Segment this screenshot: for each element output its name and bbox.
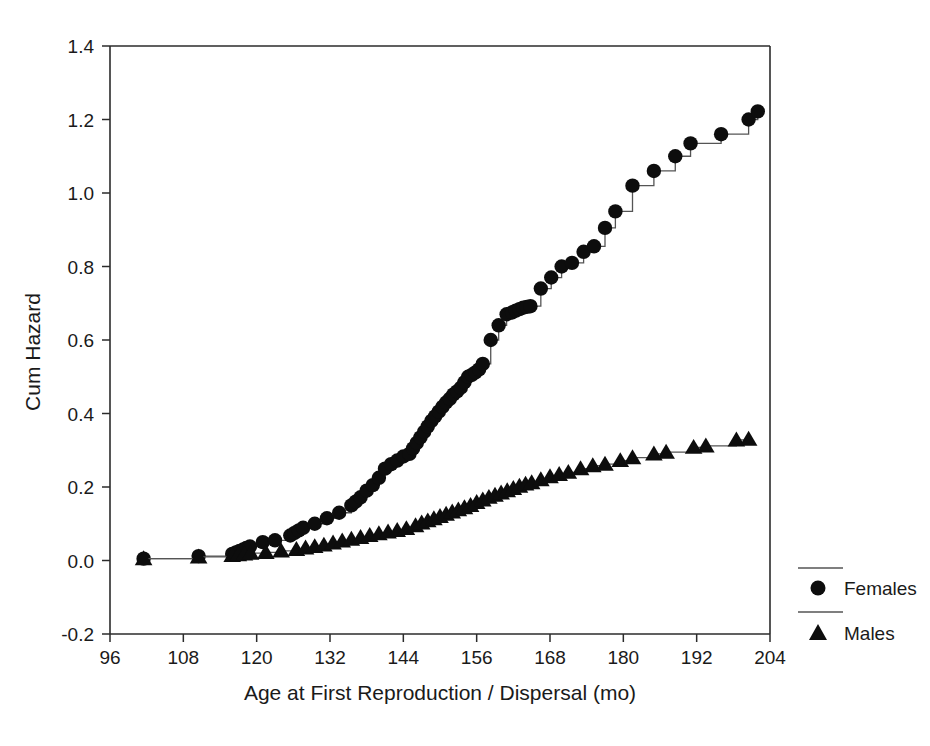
plot-frame <box>110 46 770 634</box>
y-tick-label: 1.4 <box>68 36 95 57</box>
y-tick-label: 0.6 <box>68 330 94 351</box>
x-axis-ticks: 96108120132144156168180192204 <box>99 634 786 668</box>
data-point-marker <box>476 357 490 371</box>
data-series-layer <box>135 104 765 566</box>
x-tick-label: 144 <box>387 647 419 668</box>
legend-label-males: Males <box>844 623 895 644</box>
data-point-marker <box>484 333 498 347</box>
data-point-marker <box>534 281 548 295</box>
y-axis-ticks: -0.20.00.20.40.60.81.01.21.4 <box>61 36 110 645</box>
data-point-marker <box>625 178 639 192</box>
data-point-marker <box>332 506 346 520</box>
data-point-marker <box>587 239 601 253</box>
x-tick-label: 204 <box>754 647 786 668</box>
x-tick-label: 156 <box>461 647 493 668</box>
data-point-marker <box>683 136 697 150</box>
x-tick-label: 132 <box>314 647 346 668</box>
x-tick-label: 180 <box>607 647 639 668</box>
x-tick-label: 96 <box>99 647 120 668</box>
x-tick-label: 192 <box>681 647 713 668</box>
data-point-marker <box>596 456 614 471</box>
legend-label-females: Females <box>844 578 917 599</box>
data-point-marker <box>657 444 675 459</box>
y-tick-label: 0.2 <box>68 477 94 498</box>
x-tick-label: 120 <box>241 647 273 668</box>
data-point-marker <box>523 299 537 313</box>
data-point-marker <box>256 535 270 549</box>
data-point-marker <box>740 431 758 446</box>
data-point-marker <box>565 256 579 270</box>
y-tick-label: 0.8 <box>68 257 94 278</box>
y-tick-label: 0.0 <box>68 551 94 572</box>
x-tick-label: 168 <box>534 647 566 668</box>
data-point-marker <box>608 204 622 218</box>
y-tick-label: 0.4 <box>68 404 95 425</box>
data-point-marker <box>714 127 728 141</box>
series-females <box>136 104 765 566</box>
data-point-marker <box>668 149 682 163</box>
y-tick-label: -0.2 <box>61 624 94 645</box>
figure-container: -0.20.00.20.40.60.81.01.21.4 96108120132… <box>0 0 930 746</box>
legend-triangle-icon <box>809 624 827 640</box>
data-point-marker <box>598 221 612 235</box>
legend-entry-males[interactable]: Males <box>798 612 895 644</box>
data-point-marker <box>624 449 642 464</box>
series-line <box>144 111 758 558</box>
data-point-marker <box>544 270 558 284</box>
legend-circle-icon <box>811 581 826 596</box>
legend: Females Males <box>798 568 917 644</box>
data-point-marker <box>697 437 715 452</box>
x-tick-label: 108 <box>167 647 199 668</box>
y-tick-label: 1.0 <box>68 183 94 204</box>
data-point-marker <box>647 164 661 178</box>
y-axis-title: Cum Hazard <box>21 293 44 411</box>
x-axis-title: Age at First Reproduction / Dispersal (m… <box>244 681 636 704</box>
series-males <box>135 431 758 565</box>
cum-hazard-chart: -0.20.00.20.40.60.81.01.21.4 96108120132… <box>0 0 930 746</box>
data-point-marker <box>751 104 765 118</box>
y-tick-label: 1.2 <box>68 110 94 131</box>
legend-entry-females[interactable]: Females <box>798 568 917 599</box>
